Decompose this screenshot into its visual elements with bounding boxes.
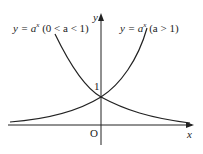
label-exponent: x [143,21,146,29]
label-prefix: y = a [120,22,143,34]
x-axis-label: x [187,129,192,140]
y-tick-label-one: 1 [94,81,100,92]
label-condition: (0 < a < 1) [42,22,89,34]
origin-label: O [90,128,98,139]
curve-label-increasing: y = ax (a > 1) [120,22,179,34]
y-axis-arrow-icon [98,13,104,21]
y-axis-label: y [93,12,98,23]
label-exponent: x [36,21,39,29]
label-condition: (a > 1) [149,22,178,34]
curve-label-decreasing: y = ax (0 < a < 1) [13,22,89,34]
exponential-diagram: y = ax (0 < a < 1) y = ax (a > 1) y x O … [0,0,203,154]
label-prefix: y = a [13,22,36,34]
